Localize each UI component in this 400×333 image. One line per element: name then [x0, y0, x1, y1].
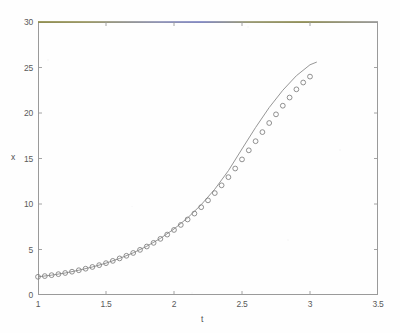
data-point-marker [219, 183, 224, 188]
data-point-marker [206, 198, 211, 203]
data-point-marker [287, 95, 292, 100]
data-point-marker [226, 175, 231, 180]
data-point-marker [246, 148, 251, 153]
data-point-marker [301, 80, 306, 85]
data-point-marker [199, 205, 204, 210]
data-point-marker [280, 103, 285, 108]
data-point-marker [294, 87, 299, 92]
analytic-solution-line [38, 62, 317, 277]
data-point-marker [260, 130, 265, 135]
data-point-marker [212, 191, 217, 196]
data-point-marker [233, 166, 238, 171]
data-point-marker [267, 121, 272, 126]
data-point-marker [308, 74, 313, 79]
data-point-marker [274, 112, 279, 117]
data-point-marker [253, 139, 258, 144]
chart-page: x t 0 5 10 15 20 25 30 1 1.5 2 2.5 3 3.5 [0, 0, 400, 333]
chart-canvas [0, 0, 400, 333]
data-point-marker [240, 157, 245, 162]
tick-marks [38, 22, 378, 295]
